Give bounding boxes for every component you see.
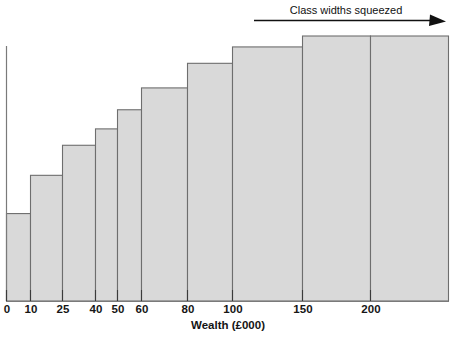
chart-canvas xyxy=(0,0,451,338)
x-tick-label: 80 xyxy=(182,303,195,315)
histogram-bar xyxy=(63,145,96,301)
histogram-bar xyxy=(31,175,63,301)
x-tick-label: 50 xyxy=(112,303,125,315)
histogram-bar xyxy=(233,47,303,301)
bars-group xyxy=(7,36,449,301)
x-tick-label: 100 xyxy=(223,303,243,315)
x-tick-label: 150 xyxy=(293,303,313,315)
histogram-bar xyxy=(96,129,118,301)
x-tick-label: 25 xyxy=(57,303,70,315)
x-tick-label: 200 xyxy=(361,303,381,315)
annotation-label: Class widths squeezed xyxy=(290,4,403,16)
histogram-bar xyxy=(118,110,142,301)
histogram-bar xyxy=(303,36,371,301)
x-tick-label: 60 xyxy=(136,303,149,315)
annotation-arrow xyxy=(254,15,446,27)
histogram-bar xyxy=(7,214,31,301)
histogram-bar xyxy=(188,63,233,301)
x-axis-title: Wealth (£000) xyxy=(191,319,265,331)
x-tick-label: 10 xyxy=(25,303,38,315)
histogram-bar xyxy=(371,36,449,301)
x-tick-label: 40 xyxy=(90,303,103,315)
histogram-bar xyxy=(142,88,188,301)
histogram-chart: 0102540506080100150200 Class widths sque… xyxy=(0,0,451,338)
x-tick-label: 0 xyxy=(4,303,11,315)
